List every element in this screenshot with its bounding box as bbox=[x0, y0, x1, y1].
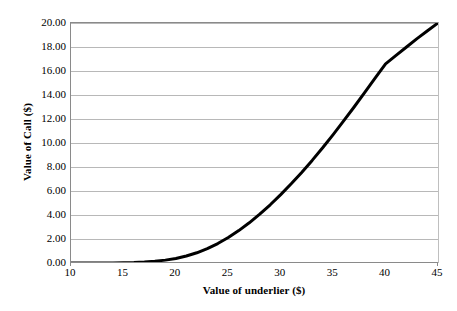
x-tick-label: 30 bbox=[260, 266, 300, 279]
y-tick-label: 8.00 bbox=[22, 161, 66, 172]
x-axis-tick-labels: 1015202530354045 bbox=[0, 266, 457, 282]
plot-canvas bbox=[71, 23, 438, 263]
y-axis-tick-labels: 0.002.004.006.008.0010.0012.0014.0016.00… bbox=[20, 0, 66, 311]
y-tick-label: 10.00 bbox=[22, 137, 66, 148]
y-tick-label: 6.00 bbox=[22, 185, 66, 196]
x-tick-label: 20 bbox=[155, 266, 195, 279]
gridlines bbox=[71, 23, 438, 239]
y-tick-label: 18.00 bbox=[22, 41, 66, 52]
x-axis-line bbox=[70, 262, 438, 263]
x-axis-title: Value of underlier ($) bbox=[70, 284, 438, 296]
y-tick-label: 2.00 bbox=[22, 233, 66, 244]
x-tick-label: 25 bbox=[207, 266, 247, 279]
y-tick-label: 12.00 bbox=[22, 113, 66, 124]
y-tick-label: 16.00 bbox=[22, 65, 66, 76]
chart-figure: Value of Call ($) 0.002.004.006.008.0010… bbox=[0, 0, 457, 311]
y-tick-label: 14.00 bbox=[22, 89, 66, 100]
y-tick-label: 20.00 bbox=[22, 17, 66, 28]
x-tick-label: 45 bbox=[417, 266, 457, 279]
x-tick-label: 40 bbox=[365, 266, 405, 279]
x-tick-mark bbox=[437, 262, 438, 266]
x-tick-mark bbox=[70, 262, 71, 266]
x-tick-label: 15 bbox=[102, 266, 142, 279]
x-tick-label: 35 bbox=[312, 266, 352, 279]
x-tick-label: 10 bbox=[50, 266, 90, 279]
y-tick-label: 4.00 bbox=[22, 209, 66, 220]
plot-area bbox=[70, 22, 439, 263]
